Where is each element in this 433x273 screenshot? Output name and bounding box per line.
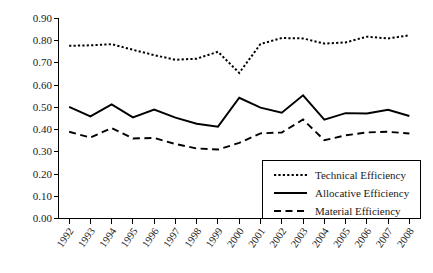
x-axis-tick-marks <box>69 219 409 225</box>
data-series-group <box>69 35 409 149</box>
x-tick-label: 1999 <box>204 226 225 250</box>
x-tick-label: 2008 <box>395 226 416 250</box>
x-tick-label: 2002 <box>267 226 288 250</box>
x-tick-label: 1998 <box>182 226 203 250</box>
legend-label: Material Efficiency <box>315 205 401 217</box>
x-tick-label: 1993 <box>76 226 97 250</box>
x-tick-label: 2001 <box>246 226 267 250</box>
legend-label: Allocative Efficiency <box>315 187 410 199</box>
x-tick-label: 2000 <box>225 226 246 250</box>
y-tick-label: 0.90 <box>33 12 53 24</box>
x-tick-label: 1995 <box>119 226 140 250</box>
series-line-technical-efficiency <box>69 35 409 73</box>
y-tick-label: 0.50 <box>33 101 53 113</box>
x-tick-label: 2003 <box>289 226 310 250</box>
x-tick-label: 2006 <box>352 226 373 250</box>
y-axis-tick-marks <box>54 19 59 219</box>
y-tick-label: 0.60 <box>33 79 53 91</box>
x-tick-label: 1996 <box>140 226 161 250</box>
y-axis-tick-labels: 0.900.800.700.600.500.400.300.200.100.00 <box>33 12 53 224</box>
legend-label: Technical Efficiency <box>315 169 406 181</box>
series-line-allocative-efficiency <box>69 95 409 126</box>
x-tick-label: 2004 <box>310 225 331 249</box>
chart-plot-area: 0.900.800.700.600.500.400.300.200.100.00… <box>0 0 433 273</box>
y-tick-label: 0.70 <box>33 56 53 68</box>
x-tick-label: 1994 <box>97 225 118 249</box>
y-tick-label: 0.30 <box>33 145 53 157</box>
y-tick-label: 0.20 <box>33 168 53 180</box>
y-tick-label: 0.00 <box>33 212 53 224</box>
x-axis-tick-labels: 1992199319941995199619971998199920002001… <box>55 225 416 249</box>
x-tick-label: 2007 <box>374 226 395 250</box>
chart-legend: Technical EfficiencyAllocative Efficienc… <box>263 161 421 219</box>
y-tick-label: 0.40 <box>33 123 53 135</box>
efficiency-line-chart: 0.900.800.700.600.500.400.300.200.100.00… <box>0 0 433 273</box>
y-tick-label: 0.80 <box>33 34 53 46</box>
x-tick-label: 1997 <box>161 226 182 250</box>
series-line-material-efficiency <box>69 120 409 150</box>
x-tick-label: 1992 <box>55 226 76 250</box>
x-tick-label: 2005 <box>331 226 352 250</box>
y-tick-label: 0.10 <box>33 190 53 202</box>
